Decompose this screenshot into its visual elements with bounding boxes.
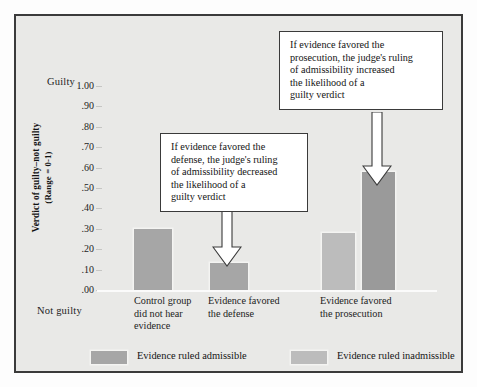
y-tick-label: .40 bbox=[50, 203, 94, 213]
y-tick-label: .20 bbox=[50, 244, 94, 254]
y-axis-ticks: 1.00.90.80.70.60.50.40.30.20.10.00 bbox=[46, 16, 94, 300]
prosecution-arrow-icon bbox=[362, 112, 392, 188]
legend-label: Evidence ruled admissible bbox=[137, 350, 247, 361]
y-tick-label: .10 bbox=[50, 265, 94, 275]
axis-baseline bbox=[97, 290, 437, 292]
legend-swatch bbox=[91, 351, 127, 364]
y-tick-label: .60 bbox=[50, 163, 94, 173]
y-tick-label: .00 bbox=[50, 285, 94, 295]
legend: Evidence ruled admissibleEvidence ruled … bbox=[40, 348, 465, 372]
prosecution-admissible-bar bbox=[322, 233, 355, 290]
figure-canvas: Guilty Not guilty Verdict of guilty–not … bbox=[0, 0, 477, 387]
y-tick-label: .90 bbox=[50, 101, 94, 111]
prosecution-callout-box: If evidence favored the prosecution, the… bbox=[279, 31, 443, 110]
y-tick-label: .70 bbox=[50, 142, 94, 152]
control-bar bbox=[134, 229, 172, 290]
figure-frame: Guilty Not guilty Verdict of guilty–not … bbox=[14, 14, 463, 373]
category-label-prosecution: Evidence favored the prosecution bbox=[320, 295, 392, 320]
defense-arrow-icon bbox=[212, 209, 242, 269]
y-tick-label: .80 bbox=[50, 122, 94, 132]
y-axis-title-line1: Verdict of guilty–not guilty bbox=[31, 123, 41, 233]
y-tick-label: 1.00 bbox=[50, 81, 94, 91]
y-tick-label: .50 bbox=[50, 183, 94, 193]
legend-swatch bbox=[291, 351, 327, 364]
axis-bottom-label: Not guilty bbox=[37, 305, 82, 316]
defense-callout-box: If evidence favored the defense, the jud… bbox=[160, 133, 308, 212]
category-label-defense: Evidence favored the defense bbox=[208, 295, 280, 320]
category-label-control: Control group did not hear evidence bbox=[134, 295, 191, 333]
prosecution-inadmissible-bar bbox=[362, 172, 395, 290]
y-tick-label: .30 bbox=[50, 224, 94, 234]
legend-label: Evidence ruled inadmissible bbox=[337, 350, 455, 361]
